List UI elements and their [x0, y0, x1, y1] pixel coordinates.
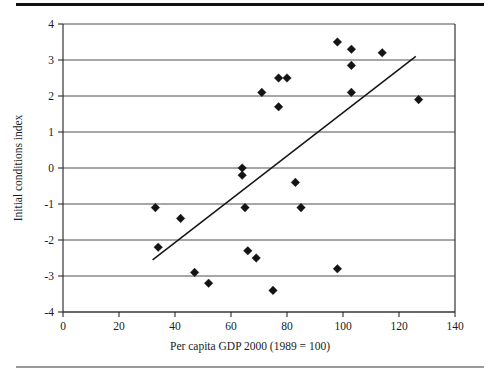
y-tick-label: -2: [44, 234, 54, 246]
data-point: [283, 74, 292, 83]
data-point: [291, 178, 300, 187]
data-points-group: [151, 38, 423, 295]
data-point: [190, 268, 199, 277]
data-point: [252, 254, 261, 263]
y-tick-label: 4: [48, 18, 54, 30]
data-point: [274, 103, 283, 112]
x-tick-label: 140: [446, 320, 464, 332]
data-point: [297, 203, 306, 212]
y-tick-label: 3: [48, 54, 54, 66]
y-tick-label: 2: [48, 90, 54, 102]
data-point: [347, 45, 356, 54]
y-tick-labels-group: -4-3-2-101234: [44, 18, 54, 318]
gridlines-group: [63, 24, 455, 312]
data-point: [347, 88, 356, 97]
y-tick-label: 1: [48, 126, 54, 138]
trend-line: [153, 56, 416, 259]
x-tick-label: 20: [113, 320, 125, 332]
data-point: [154, 243, 163, 252]
data-point: [347, 61, 356, 70]
data-point: [244, 247, 253, 256]
data-point: [269, 286, 278, 295]
x-axis-title: Per capita GDP 2000 (1989 = 100): [170, 340, 330, 353]
x-tick-label: 40: [169, 320, 181, 332]
data-point: [238, 171, 247, 180]
y-axis-title: Initial conditions index: [12, 114, 24, 221]
y-tick-label: -3: [44, 270, 54, 282]
x-axis-ticks-group: [63, 312, 455, 317]
y-tick-label: 0: [48, 162, 54, 174]
x-tick-label: 120: [390, 320, 408, 332]
chart-figure: 020406080100120140 -4-3-2-101234 Per cap…: [0, 0, 500, 371]
data-point: [378, 49, 387, 58]
x-tick-label: 60: [225, 320, 237, 332]
data-point: [151, 203, 160, 212]
data-point: [176, 214, 185, 223]
data-point: [241, 203, 250, 212]
data-point: [414, 95, 423, 104]
x-tick-label: 80: [281, 320, 293, 332]
data-point: [204, 279, 213, 288]
data-point: [274, 74, 283, 83]
data-point: [258, 88, 267, 97]
y-axis-ticks-group: [58, 24, 63, 312]
y-tick-label: -4: [44, 306, 54, 318]
scatter-plot: 020406080100120140 -4-3-2-101234 Per cap…: [0, 0, 500, 371]
y-tick-label: -1: [44, 198, 54, 210]
x-tick-labels-group: 020406080100120140: [60, 320, 464, 332]
x-tick-label: 0: [60, 320, 66, 332]
data-point: [333, 265, 342, 274]
data-point: [333, 38, 342, 47]
x-tick-label: 100: [334, 320, 352, 332]
